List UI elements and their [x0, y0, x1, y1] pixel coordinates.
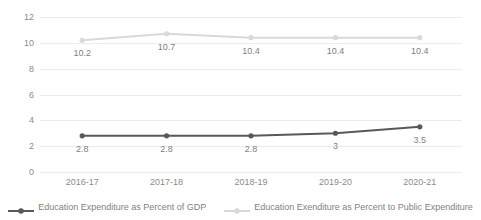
plot-area: 2.82.82.833.510.210.710.410.410.4: [40, 17, 462, 172]
series-1: [80, 31, 423, 43]
x-axis: 2016-172017-182018-192019-202020-21: [40, 176, 462, 190]
data-label: 10.7: [158, 42, 176, 52]
data-point-marker: [248, 133, 253, 138]
legend-item-0[interactable]: Education Expenditure as Percent of GDP: [8, 201, 206, 213]
y-tick-label: 6: [0, 90, 34, 100]
data-label: 10.4: [242, 46, 260, 56]
data-label: 3: [333, 141, 338, 151]
data-label: 2.8: [160, 144, 173, 154]
line-chart: 121086420 2.82.82.833.510.210.710.410.41…: [0, 0, 481, 220]
data-point-marker: [164, 31, 169, 36]
legend-marker-icon: [224, 202, 250, 212]
legend-marker-icon: [8, 202, 34, 212]
y-tick-label: 2: [0, 141, 34, 151]
y-tick-label: 0: [0, 167, 34, 177]
legend-item-1[interactable]: Education Exenditure as Percent to Publi…: [224, 201, 473, 213]
data-point-marker: [80, 133, 85, 138]
data-point-marker: [417, 124, 422, 129]
series-0: [80, 124, 423, 138]
chart-legend: Education Expenditure as Percent of GDPE…: [0, 198, 481, 216]
y-tick-label: 8: [0, 64, 34, 74]
data-label: 10.4: [411, 46, 429, 56]
data-label: 10.2: [73, 48, 91, 58]
data-label: 3.5: [414, 135, 427, 145]
gridline: [40, 172, 462, 173]
y-tick-label: 4: [0, 115, 34, 125]
y-tick-label: 10: [0, 38, 34, 48]
data-point-marker: [248, 35, 253, 40]
x-tick-label: 2020-21: [403, 176, 436, 188]
data-label: 2.8: [76, 144, 89, 154]
x-tick-label: 2017-18: [150, 176, 183, 188]
legend-label: Education Exenditure as Percent to Publi…: [254, 201, 473, 213]
data-point-marker: [80, 38, 85, 43]
data-point-marker: [164, 133, 169, 138]
data-label: 10.4: [327, 46, 345, 56]
x-tick-label: 2018-19: [234, 176, 267, 188]
data-point-marker: [417, 35, 422, 40]
y-axis: 121086420: [0, 17, 34, 172]
data-point-marker: [333, 35, 338, 40]
y-tick-label: 12: [0, 12, 34, 22]
legend-label: Education Expenditure as Percent of GDP: [38, 201, 206, 213]
data-point-marker: [333, 131, 338, 136]
x-tick-label: 2019-20: [319, 176, 352, 188]
data-label: 2.8: [245, 144, 258, 154]
x-tick-label: 2016-17: [66, 176, 99, 188]
